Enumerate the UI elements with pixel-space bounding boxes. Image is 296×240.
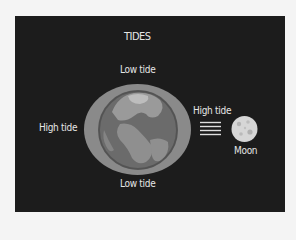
gravity-lines-icon bbox=[200, 123, 221, 135]
high-tide-left-label: High tide bbox=[39, 123, 77, 133]
low-tide-top-label: Low tide bbox=[120, 65, 155, 75]
earth-icon bbox=[99, 91, 177, 169]
low-tide-bottom-label: Low tide bbox=[120, 179, 155, 189]
high-tide-right-label: High tide bbox=[193, 106, 231, 116]
diagram-title: TIDES bbox=[124, 31, 151, 42]
moon-icon bbox=[232, 116, 258, 142]
moon-label: Moon bbox=[234, 146, 257, 156]
